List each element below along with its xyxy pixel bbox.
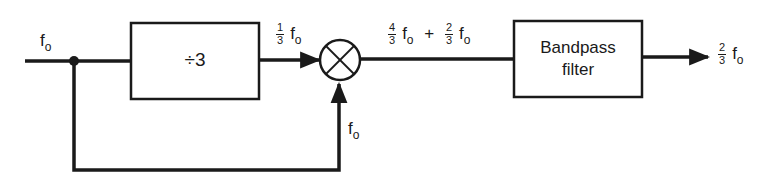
feedback-path [74,61,339,170]
filter-label-line1: Bandpass [514,37,642,59]
block-diagram-canvas [0,0,774,182]
filter-block-label: Bandpass filter [514,37,642,81]
output-label: 23fo [718,42,744,66]
input-label: fo [40,32,51,49]
filter-label-line2: filter [514,59,642,81]
mixer-icon [320,40,360,80]
divider-block-label: ÷3 [131,49,259,71]
mixer-output-label: 43fo + 23fo [388,22,471,46]
feedback-label: fo [348,120,359,137]
divider-output-label: 13fo [276,22,302,46]
